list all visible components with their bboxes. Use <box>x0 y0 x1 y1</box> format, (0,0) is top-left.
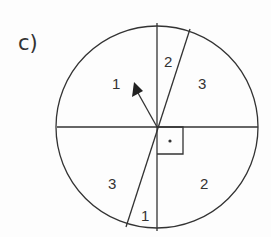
region-label: 1 <box>112 75 120 92</box>
diagram: c) 1 2 3 3 2 1 <box>0 0 271 237</box>
region-label: 3 <box>198 75 206 92</box>
arrow-shaft <box>138 93 157 127</box>
circle-diagram: c) 1 2 3 3 2 1 <box>0 0 271 237</box>
region-label: 1 <box>141 207 149 224</box>
arrow-head-icon <box>132 82 143 97</box>
region-label: 2 <box>200 175 208 192</box>
part-label: c) <box>18 31 38 55</box>
slanted-diameter <box>126 29 190 227</box>
region-label: 3 <box>108 175 116 192</box>
region-label: 2 <box>164 53 172 70</box>
right-angle-dot <box>168 139 171 142</box>
